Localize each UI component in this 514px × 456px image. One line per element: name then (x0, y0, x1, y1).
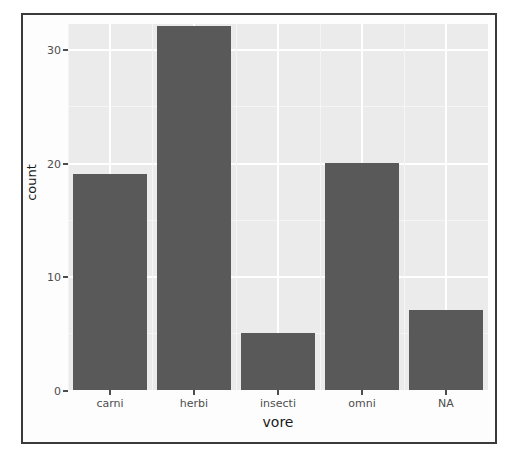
y-tick-label-20: 20 (47, 158, 61, 169)
gridline-minor-x-5 (404, 24, 405, 390)
x-tick-mark-carni (109, 390, 111, 395)
gridline-minor-x-2 (152, 24, 153, 390)
bar-carni (73, 174, 147, 390)
x-axis-title: vore (68, 414, 488, 430)
chart-panel (68, 24, 488, 390)
y-axis-tick-marks (63, 24, 68, 390)
x-tick-label-carni: carni (96, 397, 123, 411)
y-tick-mark-20 (63, 163, 68, 165)
bar-insecti (241, 333, 315, 390)
y-tick-label-0: 0 (54, 386, 61, 397)
x-axis-tick-labels: carni herbi insecti omni NA (68, 397, 488, 413)
x-tick-mark-na (445, 390, 447, 395)
x-tick-label-insecti: insecti (260, 397, 296, 411)
x-tick-mark-insecti (277, 390, 279, 395)
bar-herbi (157, 26, 231, 390)
x-tick-label-herbi: herbi (180, 397, 208, 411)
gridline-minor-x-4 (320, 24, 321, 390)
x-tick-label-omni: omni (348, 397, 375, 411)
plot-canvas: 30 20 10 0 count carni herbi insecti omn… (23, 15, 495, 442)
gridline-minor-x-3 (236, 24, 237, 390)
x-tick-mark-herbi (193, 390, 195, 395)
bar-omni (325, 163, 399, 390)
y-tick-mark-10 (63, 276, 68, 278)
gridline-minor-x-1 (68, 24, 69, 390)
y-tick-label-10: 10 (47, 272, 61, 283)
x-tick-mark-omni (361, 390, 363, 395)
bar-na (409, 310, 483, 390)
y-tick-label-30: 30 (47, 45, 61, 56)
x-axis-tick-marks (68, 390, 488, 395)
y-tick-mark-30 (63, 49, 68, 51)
plot-frame: 30 20 10 0 count carni herbi insecti omn… (21, 13, 497, 444)
y-axis-title: count (24, 153, 39, 213)
x-tick-label-na: NA (438, 397, 454, 411)
